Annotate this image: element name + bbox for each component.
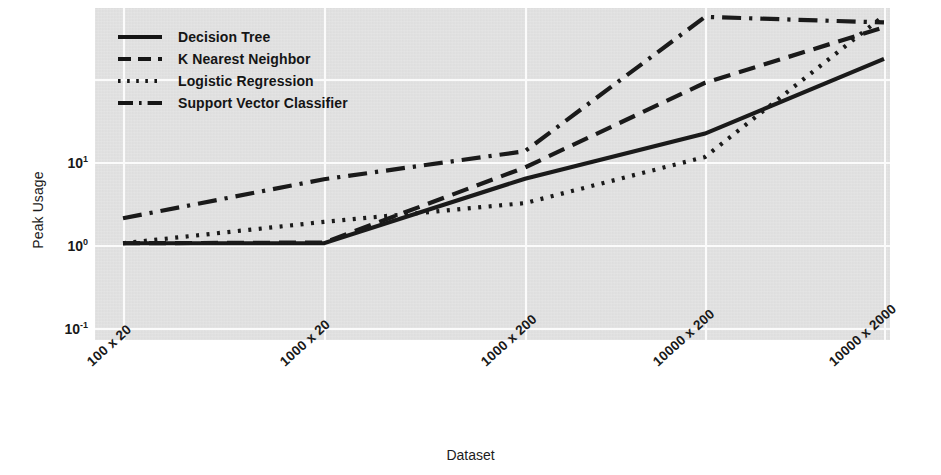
y-tick-label: 101 xyxy=(67,154,88,171)
legend-label: Support Vector Classifier xyxy=(178,95,348,111)
y-axis-label: Peak Usage xyxy=(30,145,46,275)
legend-swatch-solid-icon xyxy=(116,30,168,44)
legend-item: Logistic Regression xyxy=(116,70,348,92)
x-axis-label: Dataset xyxy=(0,447,941,463)
y-tick-label: 10-1 xyxy=(64,320,88,337)
chart-figure: 101 100 10-1 Peak Usage 100 x 20 1000 x … xyxy=(0,0,941,475)
legend-swatch-dotted-icon xyxy=(116,74,168,88)
legend-swatch-dashdot-icon xyxy=(116,96,168,110)
legend-label: K Nearest Neighbor xyxy=(178,51,311,67)
y-axis: 101 100 10-1 Peak Usage xyxy=(0,0,88,475)
y-tick-label: 100 xyxy=(67,237,88,254)
legend-item: Support Vector Classifier xyxy=(116,92,348,114)
legend-item: Decision Tree xyxy=(116,26,348,48)
chart-legend: Decision Tree K Nearest Neighbor Logisti… xyxy=(110,22,354,118)
legend-swatch-dashed-icon xyxy=(116,52,168,66)
legend-label: Logistic Regression xyxy=(178,73,314,89)
legend-item: K Nearest Neighbor xyxy=(116,48,348,70)
legend-label: Decision Tree xyxy=(178,29,270,45)
